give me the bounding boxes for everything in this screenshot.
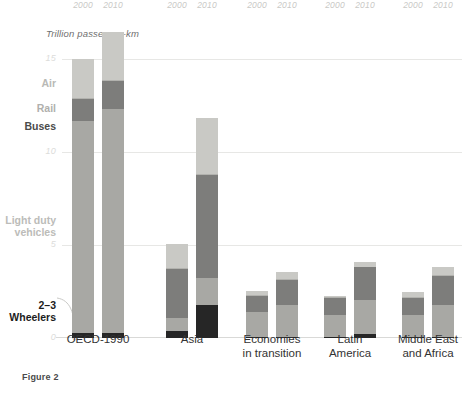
bar-segment [72, 99, 94, 121]
x-axis-year-label: 2010 [98, 0, 128, 10]
bar-segment [324, 298, 346, 315]
plot-area: 051015 [62, 22, 462, 338]
bar-segment [196, 175, 218, 277]
y-axis-tick-label: 5 [30, 239, 56, 249]
y-axis-tick-label: 10 [30, 146, 56, 156]
bar-segment [196, 278, 218, 306]
x-axis-year-label: 2000 [398, 0, 428, 10]
bar-segment [354, 300, 376, 334]
stacked-bar[interactable] [276, 272, 298, 338]
stacked-bar[interactable] [354, 262, 376, 338]
y-axis-tick-label: 15 [30, 53, 56, 63]
stacked-bar[interactable] [432, 267, 454, 338]
stacked-bar[interactable] [196, 118, 218, 338]
legend-label-two-three-wheelers: 2–3 Wheelers [0, 299, 56, 324]
bar-segment [276, 280, 298, 305]
x-axis-year-label: 2010 [192, 0, 222, 10]
stacked-bar[interactable] [246, 291, 268, 338]
x-axis-year-label: 2000 [242, 0, 272, 10]
bar-segment [166, 318, 188, 331]
bar-segment [102, 81, 124, 110]
bar-segment [196, 118, 218, 175]
bar-segment [276, 272, 298, 279]
stacked-bar[interactable] [166, 244, 188, 338]
bar-segment [102, 109, 124, 333]
legend-label-buses: Buses [0, 120, 56, 132]
figure-container: Trillion passenger-km Air Rail Buses Lig… [0, 0, 476, 399]
stacked-bar[interactable] [102, 32, 124, 338]
x-axis-year-label: 2000 [162, 0, 192, 10]
x-axis-year-label: 2010 [272, 0, 302, 10]
bar-segment [246, 296, 268, 312]
bar-segment [166, 269, 188, 318]
bar-segment [354, 267, 376, 300]
x-axis-year-label: 2000 [320, 0, 350, 10]
bar-segment [402, 298, 424, 315]
bar-segment [432, 267, 454, 275]
x-axis-year-label: 2010 [350, 0, 380, 10]
x-axis-year-label: 2010 [428, 0, 458, 10]
stacked-bar[interactable] [72, 59, 94, 338]
figure-caption: Figure 2 [22, 372, 59, 382]
x-axis-year-label: 2000 [68, 0, 98, 10]
x-axis-group-label: Middle East and Africa [373, 332, 476, 361]
legend-label-light-duty-vehicles: Light duty vehicles [0, 214, 56, 239]
legend-label-air: Air [0, 77, 56, 89]
bar-segment [166, 244, 188, 268]
bar-segment [102, 32, 124, 79]
bar-segment [72, 121, 94, 333]
bar-segment [72, 59, 94, 98]
bar-segment [432, 276, 454, 305]
legend-label-rail: Rail [0, 102, 56, 114]
